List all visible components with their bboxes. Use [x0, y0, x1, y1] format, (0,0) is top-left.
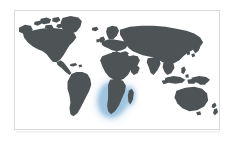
world-map-svg	[15, 11, 219, 129]
frame-drop-shadow	[16, 131, 220, 134]
map-frame	[14, 10, 220, 130]
world-map-thumbnail	[0, 0, 235, 142]
